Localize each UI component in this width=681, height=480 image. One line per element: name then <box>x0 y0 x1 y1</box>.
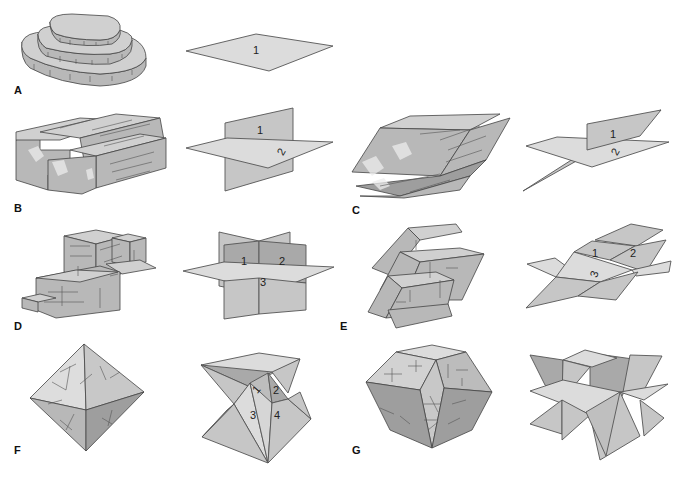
panel-f-specimen <box>30 344 144 451</box>
plane-label-2: 2 <box>279 255 285 267</box>
panel-c: 1 2 C <box>352 110 669 216</box>
panel-label-g: G <box>352 444 361 456</box>
plane-label-1: 1 <box>592 247 598 259</box>
panel-d-plane-diagram: 1 2 3 <box>183 232 334 319</box>
panel-c-plane-diagram: 1 2 <box>523 110 669 191</box>
plane-label-1: 1 <box>241 255 247 267</box>
plane-label-2: 2 <box>630 247 636 259</box>
panel-e-plane-diagram: 1 2 3 <box>526 224 671 308</box>
plane-label-1: 1 <box>610 128 616 140</box>
panel-e: 1 2 3 E <box>340 224 671 332</box>
panel-a-specimen <box>22 14 146 86</box>
plane-label-1: 1 <box>257 124 263 136</box>
panel-f: 1 2 3 4 F <box>14 344 311 463</box>
panel-d: 1 2 3 D <box>14 230 334 332</box>
panel-b: 1 2 B <box>14 108 333 214</box>
plane-label-1: 1 <box>253 44 259 56</box>
panel-a: 1 A <box>14 14 333 96</box>
panel-label-b: B <box>14 202 22 214</box>
plane-label-3: 3 <box>250 409 256 421</box>
plane-label-2: 2 <box>273 384 279 396</box>
panel-c-specimen <box>352 114 510 198</box>
plane-label-3: 3 <box>260 276 266 288</box>
panel-b-plane-diagram: 1 2 <box>186 108 333 191</box>
cleavage-figure: 1 A 1 2 B <box>0 0 681 480</box>
panel-e-specimen <box>368 224 484 328</box>
panel-f-plane-diagram: 1 2 3 4 <box>201 353 311 463</box>
panel-b-specimen <box>16 114 166 194</box>
panel-label-c: C <box>352 204 360 216</box>
panel-g-specimen <box>366 345 492 448</box>
plane-label-4: 4 <box>274 409 280 421</box>
panel-label-a: A <box>14 84 22 96</box>
panel-g: G <box>352 345 668 460</box>
panel-d-specimen <box>22 230 156 318</box>
panel-a-plane-diagram: 1 <box>186 34 333 71</box>
panel-label-f: F <box>14 444 21 456</box>
panel-label-d: D <box>14 320 22 332</box>
panel-label-e: E <box>340 320 347 332</box>
panel-g-plane-diagram <box>530 350 668 460</box>
